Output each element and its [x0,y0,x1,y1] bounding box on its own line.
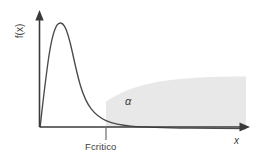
x-axis-label: x [234,136,239,146]
y-axis-label: f(x) [15,24,25,38]
distribution-figure: f(x) x α Fcritico [0,0,259,167]
critical-value-label: Fcritico [85,142,116,152]
alpha-annotation-label: α [125,96,131,107]
y-axis-arrowhead [35,10,43,21]
figure-canvas [0,0,259,167]
